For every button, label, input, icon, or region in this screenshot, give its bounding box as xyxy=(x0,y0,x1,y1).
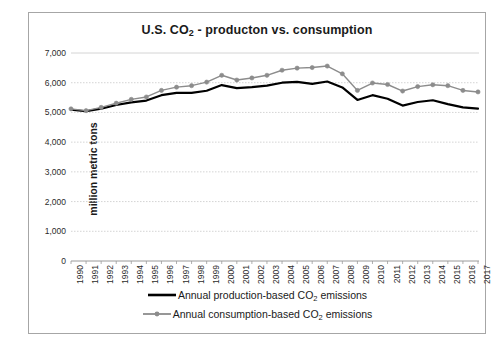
data-point xyxy=(446,84,450,88)
x-axis-tick-label: 2005 xyxy=(301,265,311,284)
x-axis-tick-label: 1997 xyxy=(181,265,191,284)
x-axis-tick-label: 2008 xyxy=(346,265,356,284)
data-point xyxy=(189,84,193,88)
data-point xyxy=(129,97,133,101)
data-point xyxy=(144,95,148,99)
chart-legend: Annual production-based CO2 emissionsAnn… xyxy=(29,285,485,323)
plot-area: 01,0002,0003,0004,0005,0006,0007,0001990… xyxy=(71,53,479,261)
x-axis-tick-label: 2017 xyxy=(482,265,492,284)
chart-svg xyxy=(71,53,479,261)
data-point xyxy=(114,101,118,105)
y-axis-tick-label: 3,000 xyxy=(45,167,66,177)
y-axis-tick-label: 4,000 xyxy=(45,137,66,147)
data-point xyxy=(265,73,269,77)
data-point xyxy=(370,81,374,85)
x-axis-tick-label: 2010 xyxy=(376,265,386,284)
data-point xyxy=(205,80,209,84)
legend-label: Annual consumption-based CO2 emissions xyxy=(173,308,373,320)
x-axis-tick-label: 1995 xyxy=(150,265,160,284)
y-axis-tick-label: 0 xyxy=(61,256,66,266)
data-point xyxy=(340,72,344,76)
legend-key-swatch xyxy=(142,308,172,320)
data-point xyxy=(220,73,224,77)
data-point xyxy=(174,85,178,89)
y-axis-tick-label: 5,000 xyxy=(45,107,66,117)
x-axis-tick-label: 1996 xyxy=(165,265,175,284)
x-axis-tick-label: 2007 xyxy=(331,265,341,284)
data-point xyxy=(385,82,389,86)
data-point xyxy=(355,88,359,92)
data-point xyxy=(476,90,480,94)
legend-label-post: emissions xyxy=(323,308,373,320)
data-point xyxy=(416,84,420,88)
chart-title-subscript: 2 xyxy=(189,28,194,38)
data-point xyxy=(431,83,435,87)
x-axis-tick-label: 2013 xyxy=(422,265,432,284)
data-point xyxy=(235,78,239,82)
legend-key-swatch xyxy=(147,289,177,301)
x-axis-tick-label: 2016 xyxy=(467,265,477,284)
legend-label-pre: Annual production-based CO xyxy=(178,289,313,301)
data-point xyxy=(84,109,88,113)
x-axis-tick-label: 2012 xyxy=(407,265,417,284)
x-axis-tick-label: 2004 xyxy=(286,265,296,284)
legend-label-pre: Annual consumption-based CO xyxy=(173,308,319,320)
x-axis-tick-label: 1992 xyxy=(105,265,115,284)
data-point xyxy=(69,107,73,111)
legend-label: Annual production-based CO2 emissions xyxy=(178,289,367,301)
x-axis-tick-label: 2003 xyxy=(271,265,281,284)
legend-label-subscript: 2 xyxy=(319,313,323,322)
x-axis-tick-label: 2000 xyxy=(226,265,236,284)
x-axis-tick-label: 2006 xyxy=(316,265,326,284)
chart-container: U.S. CO2 - producton vs. consumption mil… xyxy=(28,12,486,334)
data-point xyxy=(295,66,299,70)
x-axis-tick-label: 2015 xyxy=(452,265,462,284)
y-axis-tick-label: 2,000 xyxy=(45,197,66,207)
data-point xyxy=(159,88,163,92)
chart-title-pre: U.S. CO xyxy=(142,23,189,37)
x-axis-tick-label: 2009 xyxy=(361,265,371,284)
legend-item[interactable]: Annual consumption-based CO2 emissions xyxy=(29,304,485,323)
x-axis-tick-label: 1998 xyxy=(196,265,206,284)
chart-title-post: - producton vs. consumption xyxy=(194,23,373,37)
y-axis-tick-label: 1,000 xyxy=(45,226,66,236)
x-axis-tick-label: 2011 xyxy=(392,265,402,283)
legend-label-subscript: 2 xyxy=(313,294,317,303)
data-point xyxy=(99,105,103,109)
chart-title: U.S. CO2 - producton vs. consumption xyxy=(29,23,485,37)
data-point xyxy=(280,68,284,72)
x-axis-tick-label: 1990 xyxy=(75,265,85,284)
x-axis-tick-label: 2002 xyxy=(256,265,266,284)
legend-label-post: emissions xyxy=(317,289,367,301)
y-axis-tick-label: 6,000 xyxy=(45,78,66,88)
x-axis-tick-label: 1991 xyxy=(90,265,100,284)
data-point xyxy=(325,64,329,68)
x-axis-tick-label: 2001 xyxy=(241,265,251,284)
y-axis-tick-label: 7,000 xyxy=(45,48,66,58)
x-axis-tick-label: 1994 xyxy=(135,265,145,284)
data-point xyxy=(310,65,314,69)
data-point xyxy=(461,88,465,92)
data-point xyxy=(401,89,405,93)
data-point xyxy=(250,76,254,80)
x-axis-tick-label: 1999 xyxy=(211,265,221,284)
x-axis-tick-label: 2014 xyxy=(437,265,447,284)
legend-item[interactable]: Annual production-based CO2 emissions xyxy=(29,285,485,304)
x-axis-tick-label: 1993 xyxy=(120,265,130,284)
